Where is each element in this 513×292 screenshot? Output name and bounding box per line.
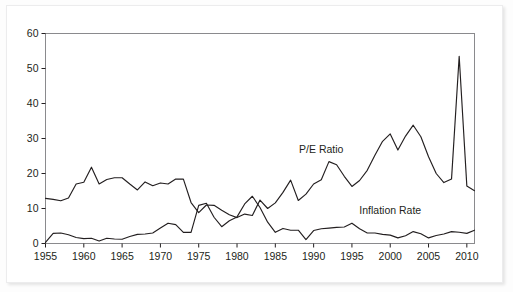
year-axis-tick-label: 1990 bbox=[302, 250, 326, 262]
year-axis-tick-label: 1975 bbox=[187, 250, 211, 262]
figure-frame: 0102030405060 19551960196519701975198019… bbox=[0, 0, 513, 292]
value-axis-tick-labels: 0102030405060 bbox=[27, 27, 39, 249]
value-axis-tick-label: 60 bbox=[27, 27, 39, 39]
series-annotation-p-e-ratio: P/E Ratio bbox=[299, 143, 344, 155]
value-axis-tick-label: 30 bbox=[27, 132, 39, 144]
year-axis-tick-label: 1995 bbox=[340, 250, 364, 262]
value-axis-tick-label: 40 bbox=[27, 97, 39, 109]
year-axis-tick-label: 2010 bbox=[455, 250, 479, 262]
year-axis-tick-label: 1965 bbox=[110, 250, 134, 262]
year-axis-ticks bbox=[46, 244, 467, 248]
year-axis-tick-label: 2000 bbox=[379, 250, 403, 262]
year-axis-tick-label: 1955 bbox=[34, 250, 58, 262]
year-axis-tick-label: 1985 bbox=[264, 250, 288, 262]
value-axis-tick-label: 20 bbox=[27, 167, 39, 179]
value-axis-ticks bbox=[42, 34, 46, 244]
chart-canvas: 0102030405060 19551960196519701975198019… bbox=[0, 0, 513, 292]
value-axis-tick-label: 0 bbox=[33, 237, 39, 249]
year-axis-tick-label: 1980 bbox=[225, 250, 249, 262]
value-axis-tick-label: 50 bbox=[27, 62, 39, 74]
year-axis-tick-label: 2005 bbox=[417, 250, 441, 262]
year-axis-tick-label: 1960 bbox=[72, 250, 96, 262]
year-axis-tick-label: 1970 bbox=[149, 250, 173, 262]
line-chart: 0102030405060 19551960196519701975198019… bbox=[0, 0, 513, 292]
value-axis-tick-label: 10 bbox=[27, 202, 39, 214]
series-annotation-inflation-rate: Inflation Rate bbox=[359, 204, 421, 216]
year-axis-tick-labels: 1955196019651970197519801985199019952000… bbox=[34, 250, 479, 262]
